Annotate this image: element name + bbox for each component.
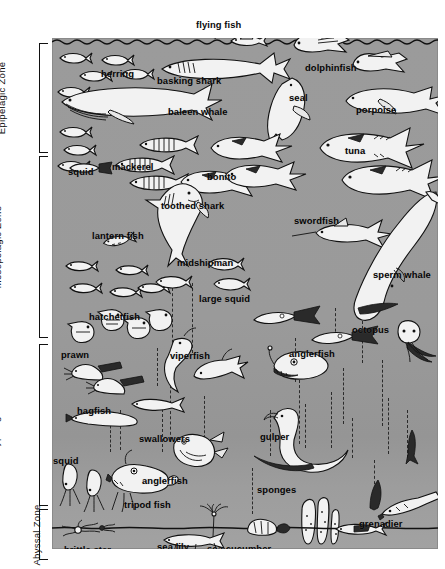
ocean-panel: herring basking shark dolphinfish baleen… (52, 38, 438, 549)
label-swallowers: swallowers (139, 433, 190, 444)
hagfish-art (128, 394, 188, 416)
label-sea-lily: sea lily (157, 541, 189, 549)
porpoise-art (340, 83, 438, 123)
zone-abyssal: Abyssal Zone (0, 509, 52, 560)
zone-bathypelagic: Bathypelagic Zone (0, 344, 52, 506)
zone-bracket (39, 43, 48, 153)
label-mackerel: mackerel (112, 161, 153, 172)
dolphinfish-art (348, 48, 408, 78)
flying-fish-art (228, 38, 268, 48)
label-large-squid: large squid (199, 293, 250, 304)
label-squid-epi: squid (68, 166, 94, 177)
zone-label-epipelagic: Epipelagic Zone (0, 62, 7, 135)
label-dolphinfish: dolphinfish (305, 62, 357, 73)
label-sea-cucumber: sea cucumber (207, 543, 271, 549)
zone-label-abyssal: Abyssal Zone (31, 504, 42, 565)
zone-mesopelagic: Mesopelagic Zone (0, 156, 52, 338)
sperm-whale-art (340, 190, 438, 326)
label-grenadier: grenadier (359, 518, 403, 529)
label-viperfish: viperfish (170, 350, 210, 361)
ocean-zones-figure: Epipelagic Zone Mesopelagic Zone Bathype… (0, 0, 445, 569)
label-squid-bathy: squid (53, 455, 79, 466)
zone-label-mesopelagic: Mesopelagic Zone (0, 206, 2, 288)
label-basking-shark: basking shark (157, 75, 221, 86)
label-prawn: prawn (61, 349, 89, 360)
deep-fish-art (402, 428, 424, 466)
sea-cucumber-art (244, 516, 292, 538)
baleen-whale-art (54, 80, 224, 124)
depth-marker (352, 418, 353, 458)
octopus-art (388, 318, 438, 364)
label-hatchetfish: hatchetfish (89, 311, 140, 322)
label-hagfish: hagfish (77, 405, 111, 416)
label-porpoise: porpoise (356, 104, 396, 115)
label-baleen-whale: baleen whale (168, 106, 228, 117)
zone-label-bathypelagic: Bathypelagic Zone (0, 383, 2, 467)
dolphinfish-art (288, 38, 350, 58)
label-tripod-fish: tripod fish (124, 499, 171, 510)
label-midshipman: midshipman (177, 257, 233, 268)
label-sponges: sponges (257, 484, 296, 495)
brittle-star-art (62, 520, 116, 538)
label-anglerfish-meso: anglerfish (289, 348, 335, 359)
label-flying-fish: flying fish (196, 19, 241, 30)
sea-lily-art (198, 504, 230, 538)
gulper-art (252, 406, 352, 482)
squid-art (58, 462, 84, 506)
zone-epipelagic: Epipelagic Zone (0, 43, 52, 153)
label-seal: seal (289, 92, 308, 103)
label-tuna: tuna (345, 145, 365, 156)
label-bonito: bonito (207, 171, 236, 182)
label-toothed-shark: toothed shark (161, 200, 224, 211)
label-swordfish: swordfish (294, 215, 339, 226)
label-herring: herring (101, 68, 134, 79)
zone-bracket (39, 156, 48, 338)
label-sperm-whale: sperm whale (373, 269, 431, 280)
flying-fish-art (174, 38, 216, 40)
label-gulper: gulper (260, 431, 289, 442)
zone-bracket (39, 344, 48, 506)
label-lantern-fish: lantern fish (92, 230, 144, 241)
label-brittle-star: brittle star (64, 544, 111, 549)
depth-marker (388, 398, 389, 454)
depth-marker (382, 360, 383, 426)
mackerel-art (136, 134, 200, 156)
label-octopus: octopus (352, 324, 389, 335)
label-anglerfish-bathy: anglerfish (142, 475, 188, 486)
